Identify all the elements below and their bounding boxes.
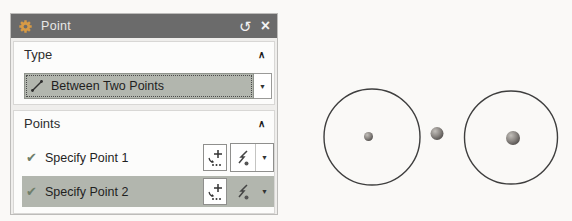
type-collapse-chevron-icon[interactable]: ∧	[258, 49, 265, 60]
point-snap-group: ▼	[230, 177, 274, 206]
inferred-point-button[interactable]	[231, 144, 256, 171]
close-icon[interactable]: ×	[261, 18, 270, 34]
inferred-point-icon	[235, 183, 251, 201]
point-snap-dropdown[interactable]: ▼	[256, 178, 273, 205]
inferred-point-icon	[235, 149, 251, 167]
point-dialog: Point ↺ × Type ∧ Between Two Points	[10, 13, 278, 215]
reset-icon[interactable]: ↺	[239, 19, 252, 34]
point-constructor-icon	[207, 149, 223, 167]
points-collapse-chevron-icon[interactable]: ∧	[258, 118, 265, 129]
inferred-point-button[interactable]	[231, 178, 256, 205]
type-section: Type ∧ Between Two Points ▼	[13, 41, 275, 105]
specify-point-2-row[interactable]: ✔ Specify Point 2	[22, 176, 274, 207]
point-dialog-button[interactable]	[203, 178, 227, 205]
dialog-titlebar[interactable]: Point ↺ ×	[11, 14, 277, 38]
dialog-title: Point	[41, 19, 71, 33]
chevron-down-icon: ▼	[261, 188, 268, 195]
point-snap-dropdown[interactable]: ▼	[256, 144, 273, 171]
chevron-down-icon: ▼	[261, 154, 268, 161]
gear-icon	[18, 19, 33, 34]
point-snap-group: ▼	[230, 143, 274, 172]
point-constructor-icon	[207, 183, 223, 201]
point-type-dropdown[interactable]: Between Two Points	[24, 73, 254, 99]
specify-point-1-row[interactable]: ✔ Specify Point 1	[22, 142, 274, 173]
check-icon: ✔	[26, 150, 37, 165]
point-dialog-button[interactable]	[203, 144, 227, 171]
specify-point-1-label: Specify Point 1	[45, 151, 128, 165]
specify-point-2-label: Specify Point 2	[45, 185, 128, 199]
midpoint-marker[interactable]	[431, 127, 444, 140]
points-section-label: Points	[24, 116, 60, 131]
points-section: Points ∧ ✔ Specify Point 1	[13, 110, 275, 214]
chevron-down-icon: ▼	[259, 83, 266, 90]
point-1-center[interactable]	[364, 132, 373, 141]
check-icon: ✔	[26, 184, 37, 199]
point-type-dropdown-arrow[interactable]: ▼	[254, 73, 272, 99]
between-two-points-icon	[30, 79, 44, 93]
point-2-center[interactable]	[506, 131, 520, 145]
point-type-value: Between Two Points	[51, 79, 164, 93]
type-section-label: Type	[24, 47, 52, 62]
